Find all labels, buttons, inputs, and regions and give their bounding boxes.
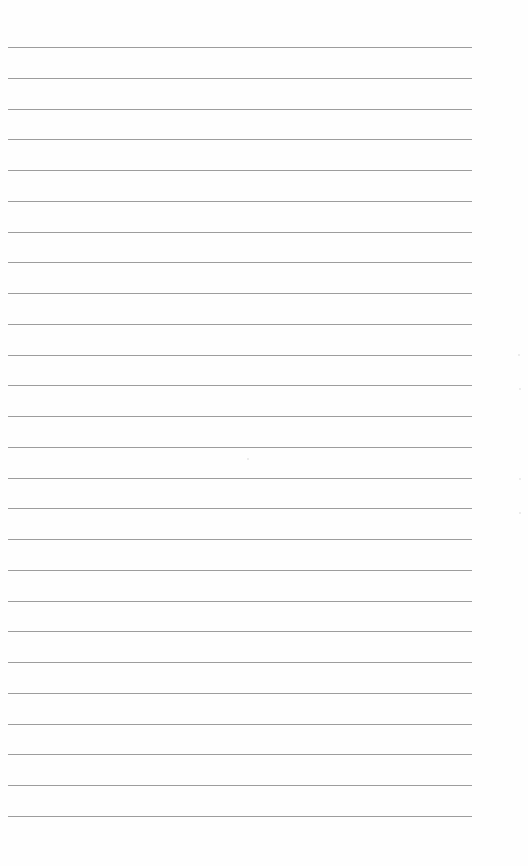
ruled-line: [8, 232, 472, 233]
ruled-line: [8, 785, 472, 786]
ruled-line: [8, 816, 472, 817]
ruled-line: [8, 170, 472, 171]
ruled-line: [8, 724, 472, 725]
ruled-line: [8, 47, 472, 48]
ruled-line: [8, 447, 472, 448]
paper-speck: [247, 458, 249, 460]
ruled-line: [8, 109, 472, 110]
ruled-line: [8, 693, 472, 694]
paper-speck: [519, 388, 521, 390]
ruled-line: [8, 570, 472, 571]
ruled-line: [8, 631, 472, 632]
lined-paper-page: [0, 0, 528, 866]
ruled-line: [8, 416, 472, 417]
ruled-line: [8, 539, 472, 540]
paper-speck: [519, 512, 521, 514]
ruled-line: [8, 754, 472, 755]
ruled-line: [8, 508, 472, 509]
ruled-line: [8, 293, 472, 294]
paper-speck: [518, 354, 520, 356]
ruled-line: [8, 139, 472, 140]
ruled-line: [8, 662, 472, 663]
ruled-line: [8, 78, 472, 79]
paper-speck: [519, 478, 521, 480]
ruled-line: [8, 355, 472, 356]
ruled-line: [8, 201, 472, 202]
ruled-line: [8, 324, 472, 325]
ruled-line: [8, 478, 472, 479]
ruled-line: [8, 262, 472, 263]
ruled-line: [8, 601, 472, 602]
ruled-line: [8, 385, 472, 386]
